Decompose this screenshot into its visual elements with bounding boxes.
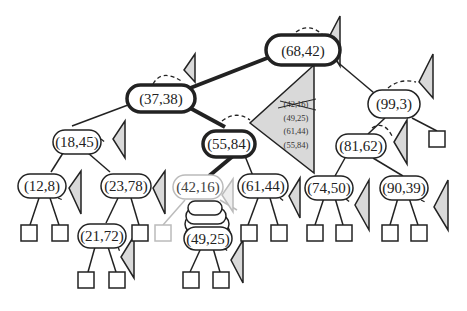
triangle-99-icon: [419, 54, 433, 98]
edge-55-61: [245, 156, 253, 176]
triangle-42-faded-icon: [222, 179, 233, 212]
edge-81-90: [373, 158, 403, 176]
edge-18-23: [88, 153, 110, 172]
arc-12: [58, 198, 63, 200]
node-18-45: (18,45): [55, 134, 99, 151]
arc-74: [346, 199, 351, 203]
triangle-23-icon: [153, 171, 165, 214]
edge-37-18: [72, 105, 128, 126]
leaf-square-icon: [78, 272, 94, 288]
leaf-square-icon: [183, 272, 199, 288]
node-81-62: (81,62): [339, 138, 383, 155]
big-triangle-entry-1: (49,25): [284, 113, 309, 123]
node-21-72: (21,72): [80, 228, 124, 245]
node-42-16-faded: (42,16): [176, 179, 220, 196]
edge-99-leaf: [412, 118, 437, 131]
leaf-square-icon: [132, 225, 148, 241]
node-61-44: (61,44): [241, 178, 285, 195]
leaf-square-icon: [307, 225, 323, 241]
arc-37: [153, 75, 183, 84]
leaf-square-icon: [336, 225, 352, 241]
node-74-50: (74,50): [307, 180, 351, 197]
triangle-61-icon: [289, 178, 300, 218]
big-triangle-entry-3: (55,84): [284, 140, 309, 150]
node-90-39: (90,39): [382, 180, 426, 197]
edge-18-12: [51, 153, 63, 172]
triangle-12-icon: [69, 171, 81, 214]
triangle-49-icon: [231, 240, 243, 283]
node-12-8: (12,8): [24, 178, 60, 195]
leaf-square-icon: [411, 225, 427, 241]
tree-diagram: (42,16) (49,25) (61,44) (55,84) (68,42) …: [0, 0, 467, 311]
node-99-3: (99,3): [376, 96, 412, 113]
node-68-42: (68,42): [281, 43, 325, 60]
leaf-square-icon: [271, 225, 287, 241]
arc-61: [280, 198, 285, 202]
node-23-78: (23,78): [104, 178, 148, 195]
leaf-square-icon: [213, 272, 229, 288]
arc-55: [222, 115, 250, 121]
big-triangle-entry-2: (61,44): [284, 126, 309, 136]
edge-99-81: [368, 118, 385, 134]
triangle-18-icon: [113, 121, 125, 158]
triangle-74-icon: [355, 180, 369, 230]
big-triangle: (42,16) (49,25) (61,44) (55,84): [250, 65, 316, 173]
leaf-square-icon: [382, 225, 398, 241]
edge-37-55: [190, 108, 225, 127]
edge-55-42: [209, 156, 233, 176]
node-55-84: (55,84): [207, 136, 251, 153]
leaf-square-icon: [52, 225, 68, 241]
edge-81-74: [335, 158, 345, 176]
triangle-37-icon: [184, 54, 195, 82]
leaf-square-icon: [241, 225, 257, 241]
leaf-square-faded-icon: [155, 225, 171, 241]
arc-90: [421, 200, 427, 203]
leaf-square-icon: [109, 272, 125, 288]
subtree-triangles: [69, 16, 448, 283]
triangle-90-icon: [434, 180, 448, 230]
leaf-square-icon: [21, 225, 37, 241]
arc-18: [101, 139, 106, 143]
leaf-square-icon: [429, 131, 445, 147]
arc-99: [388, 81, 416, 88]
triangle-81-icon: [394, 120, 407, 164]
node-37-38: (37,38): [139, 91, 183, 108]
node-49-25: (49,25): [186, 231, 230, 248]
